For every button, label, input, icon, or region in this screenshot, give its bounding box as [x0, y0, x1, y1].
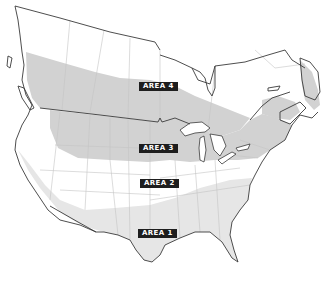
area-4-label: AREA 4: [139, 82, 178, 91]
haida-gwaii: [7, 56, 12, 68]
area-3-label: AREA 3: [139, 144, 178, 153]
lake-michigan: [199, 136, 206, 162]
area-1-label: AREA 1: [138, 229, 177, 238]
area-2-label: AREA 2: [140, 179, 179, 188]
